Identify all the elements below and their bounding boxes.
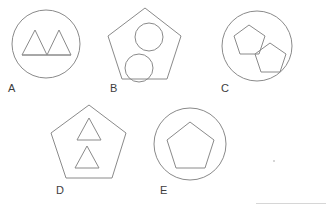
figure-label-b: B [110, 83, 118, 94]
inner-circle-icon [135, 23, 163, 51]
inner-triangle-icon [77, 118, 101, 140]
outer-circle-icon [154, 108, 226, 180]
figure-b-drawing [105, 6, 183, 84]
figure-b[interactable] [105, 6, 183, 84]
bottom-rule [256, 203, 326, 204]
inner-pentagon-icon [255, 43, 286, 72]
figure-c-drawing [220, 9, 294, 83]
speck-mark [273, 160, 275, 162]
figure-a-drawing [10, 8, 82, 80]
outer-pentagon-icon [51, 105, 126, 178]
figure-c[interactable] [220, 9, 294, 83]
inner-triangle-icon [47, 30, 71, 55]
figure-label-d: D [56, 185, 64, 196]
figure-label-c: C [221, 83, 229, 94]
figure-canvas: A B C D E [0, 0, 329, 211]
outer-circle-icon [12, 10, 80, 78]
figure-e-drawing [152, 106, 228, 182]
outer-pentagon-icon [108, 8, 181, 79]
figure-a[interactable] [10, 8, 82, 80]
inner-triangle-icon [75, 146, 99, 168]
outer-circle-icon [222, 11, 292, 81]
inner-triangle-icon [22, 30, 47, 55]
figure-e[interactable] [152, 106, 228, 182]
figure-label-e: E [160, 185, 168, 196]
figure-label-a: A [8, 83, 16, 94]
figure-d-drawing [48, 103, 128, 183]
figure-d[interactable] [48, 103, 128, 183]
inner-pentagon-icon [167, 122, 214, 168]
inner-circle-icon [125, 54, 153, 82]
